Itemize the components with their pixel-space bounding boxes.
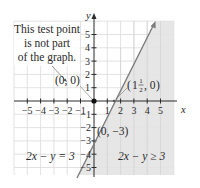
- svg-text:1: 1: [85, 82, 90, 93]
- svg-text:3: 3: [131, 105, 136, 116]
- svg-text:−5: −5: [22, 105, 33, 116]
- y-axis-label: y: [85, 10, 91, 21]
- inequality-graph: −5 −4 −3 −2 −1 1 2 3 4 5 x 5 4 3 2 1 −1 …: [0, 0, 200, 188]
- svg-text:4: 4: [145, 105, 150, 116]
- svg-text:2: 2: [139, 86, 143, 94]
- svg-text:1: 1: [139, 77, 143, 85]
- svg-text:−5: −5: [80, 162, 91, 173]
- svg-text:−2: −2: [80, 122, 91, 133]
- svg-text:): ): [156, 79, 160, 92]
- svg-text:−4: −4: [35, 105, 46, 116]
- svg-text:2: 2: [85, 69, 90, 80]
- svg-text:−1: −1: [80, 109, 91, 120]
- svg-text:1: 1: [132, 79, 138, 91]
- inequality-label: 2x − y ≥ 3: [118, 150, 166, 163]
- svg-text:This test point: This test point: [14, 23, 81, 36]
- svg-text:4: 4: [85, 42, 90, 53]
- svg-text:5: 5: [85, 29, 90, 40]
- svg-text:−2: −2: [62, 105, 73, 116]
- svg-text:is not part: is not part: [24, 37, 71, 50]
- y-intercept-point: [93, 140, 95, 142]
- svg-text:−3: −3: [49, 105, 60, 116]
- test-point-label: (0, 0): [55, 74, 80, 87]
- svg-text:of the graph.: of the graph.: [18, 51, 77, 64]
- svg-text:1: 1: [105, 105, 110, 116]
- svg-text:, 0: , 0: [144, 79, 156, 92]
- svg-text:−3: −3: [80, 135, 91, 146]
- svg-text:5: 5: [158, 105, 163, 116]
- svg-text:(: (: [127, 79, 131, 92]
- test-point: [91, 98, 96, 103]
- boundary-equation-label: 2x − y = 3: [26, 150, 75, 163]
- y-intercept-label: (0, −3): [97, 125, 129, 138]
- x-axis-label: x: [180, 104, 186, 115]
- x-intercept-point: [113, 100, 115, 102]
- svg-text:2: 2: [118, 105, 123, 116]
- svg-text:−4: −4: [80, 149, 91, 160]
- svg-text:3: 3: [85, 56, 90, 67]
